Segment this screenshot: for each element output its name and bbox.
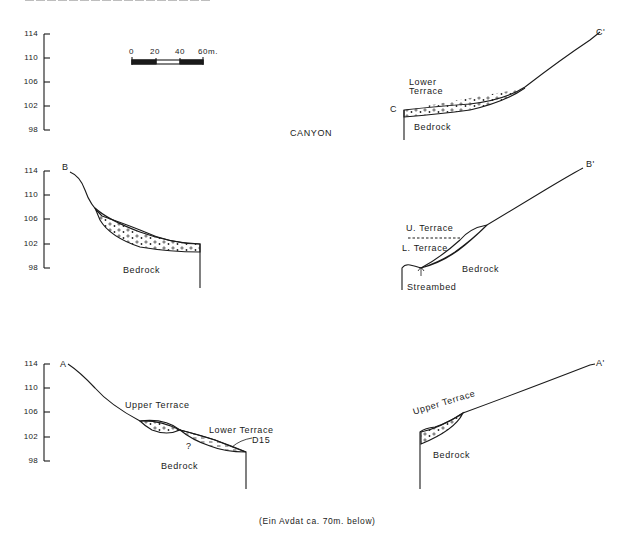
cross-section-figure: 114 110 106 102 98 114 110 106 102 98 11… [0, 0, 630, 545]
bedrock-label: Bedrock [414, 123, 451, 132]
section-a-end-label: A' [596, 359, 605, 368]
tick-label: 98 [14, 457, 38, 465]
bedrock-label: Bedrock [433, 451, 470, 460]
tick-label: 110 [14, 384, 38, 392]
bedrock-label: Bedrock [462, 265, 499, 274]
question-mark-label: ? [186, 442, 192, 451]
tick-label: 98 [14, 126, 38, 134]
tick-label: 102 [14, 433, 38, 441]
section-b-end-label: B' [586, 160, 595, 169]
tick-label: 114 [14, 30, 38, 38]
bedrock-label: Bedrock [123, 266, 160, 275]
tick-label: 110 [14, 191, 38, 199]
tick-label: 102 [14, 240, 38, 248]
section-b-start-label: B [62, 163, 69, 172]
bedrock-label: Bedrock [161, 462, 198, 471]
scale-label: 20 [150, 48, 160, 56]
upper-terrace-label: Upper Terrace [125, 401, 190, 410]
tick-label: 114 [14, 167, 38, 175]
lower-terrace-label: L. Terrace [402, 244, 448, 253]
lower-terrace-label: Terrace [409, 87, 443, 96]
d15-label: D15 [252, 436, 270, 445]
scale-label: 0 [129, 48, 134, 56]
cross-section-drawing [0, 0, 630, 545]
tick-label: 102 [14, 102, 38, 110]
lower-terrace-label: Lower Terrace [209, 426, 274, 435]
tick-label: 98 [14, 264, 38, 272]
canyon-label: CANYON [290, 129, 332, 138]
section-a-start-label: A [60, 360, 67, 369]
section-c-start-label: C [390, 105, 397, 114]
footer-note: (Ein Avdat ca. 70m. below) [259, 517, 376, 526]
elevation-axis-bottom [44, 364, 50, 461]
tick-label: 106 [14, 78, 38, 86]
upper-terrace-label: U. Terrace [406, 224, 453, 233]
scale-bar [132, 57, 203, 65]
tick-label: 106 [14, 408, 38, 416]
section-c-end-label: C' [596, 28, 605, 37]
scale-label: 40 [175, 48, 185, 56]
elevation-axis-top [44, 34, 50, 130]
elevation-axis-middle [44, 171, 50, 268]
streambed-label: Streambed [407, 283, 456, 292]
tick-label: 106 [14, 215, 38, 223]
scale-label: 60m. [198, 48, 218, 56]
tick-label: 114 [14, 360, 38, 368]
section-a-right-profile [420, 364, 595, 489]
tick-label: 110 [14, 54, 38, 62]
